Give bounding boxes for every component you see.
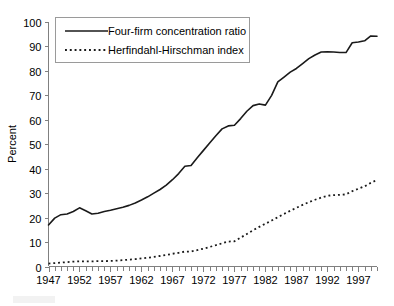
chart-container: 0102030405060708090100 19471952195719621…	[0, 0, 394, 306]
x-tick-label: 1992	[315, 274, 339, 286]
x-axis-minor-ticks	[50, 267, 378, 272]
x-tick-label: 1982	[253, 274, 277, 286]
y-axis-title: Percent	[6, 125, 18, 163]
y-tick-label: 90	[29, 41, 41, 53]
y-axis-tick-labels: 0102030405060708090100	[23, 17, 41, 274]
x-tick-label: 1962	[129, 274, 153, 286]
y-tick-label: 70	[29, 90, 41, 102]
line-chart: 0102030405060708090100 19471952195719621…	[0, 0, 394, 306]
x-tick-label: 1987	[284, 274, 308, 286]
series-line-four-firm-concentration-ratio	[49, 36, 378, 225]
y-tick-label: 50	[29, 139, 41, 151]
legend-label-four-firm-concentration-ratio: Four-firm concentration ratio	[108, 25, 246, 37]
y-tick-label: 20	[29, 213, 41, 225]
x-tick-label: 1957	[98, 274, 122, 286]
legend: Four-firm concentration ratio Herfindahl…	[56, 18, 250, 63]
x-axis-tick-labels: 1947195219571962196719721977198219871992…	[36, 274, 370, 286]
y-tick-label: 60	[29, 115, 41, 127]
series-line-herfindahl-hirschman-index	[49, 180, 378, 264]
x-tick-label: 1977	[222, 274, 246, 286]
x-tick-label: 1967	[160, 274, 184, 286]
y-tick-label: 10	[29, 237, 41, 249]
x-tick-label: 1952	[67, 274, 91, 286]
y-tick-label: 80	[29, 66, 41, 78]
y-axis-ticks	[45, 23, 49, 268]
y-tick-label: 40	[29, 164, 41, 176]
x-tick-label: 1997	[346, 274, 370, 286]
page-artifact	[13, 296, 55, 303]
y-tick-label: 100	[23, 17, 41, 29]
y-tick-label: 0	[35, 262, 41, 274]
legend-label-herfindahl-hirschman-index: Herfindahl-Hirschman index	[108, 44, 244, 56]
x-tick-label: 1947	[36, 274, 60, 286]
y-tick-label: 30	[29, 188, 41, 200]
x-tick-label: 1972	[191, 274, 215, 286]
